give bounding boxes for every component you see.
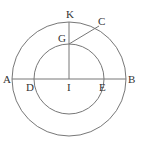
label-g: G — [58, 32, 66, 44]
label-b: B — [128, 73, 135, 85]
label-e: E — [99, 81, 106, 93]
label-i: I — [67, 81, 71, 93]
segment-gc — [69, 26, 99, 44]
label-a: A — [3, 73, 11, 85]
geometry-diagram: K C G A D I E B — [0, 0, 141, 145]
label-k: K — [66, 8, 74, 20]
label-d: D — [26, 81, 34, 93]
label-c: C — [98, 15, 105, 27]
